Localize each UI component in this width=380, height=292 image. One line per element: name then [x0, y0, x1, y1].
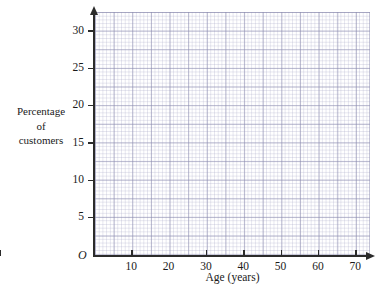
- x-axis-arrow-icon: [366, 252, 375, 260]
- y-tick-15: [88, 142, 94, 143]
- y-tick-label-30: 30: [44, 25, 84, 37]
- y-tick-5: [88, 217, 94, 218]
- y-tick-label-25: 25: [44, 62, 84, 74]
- x-tick-30: [206, 250, 207, 256]
- y-tick-25: [88, 68, 94, 69]
- graph-paper-grid: [95, 12, 370, 256]
- blank-grid-chart: 30 25 20 15 10 5 10 20 30 40 50 60 70 O …: [0, 0, 380, 292]
- y-axis-title-line-3: customers: [4, 133, 78, 148]
- x-tick-20: [0, 250, 1, 256]
- x-tick-10: [131, 250, 132, 256]
- x-tick-60: [318, 250, 319, 256]
- grid-right-edge: [369, 12, 370, 256]
- y-tick-label-5: 5: [44, 211, 84, 223]
- y-axis-line: [93, 14, 95, 256]
- y-axis-title: Percentage of customers: [4, 104, 78, 148]
- x-axis-line: [93, 255, 368, 257]
- y-axis-arrow-icon: [90, 6, 98, 15]
- y-tick-20: [88, 105, 94, 106]
- y-tick-label-10: 10: [44, 174, 84, 186]
- x-tick-50: [281, 250, 282, 256]
- x-axis-title: Age (years): [95, 271, 370, 283]
- y-tick-30: [88, 30, 94, 31]
- x-tick-40: [243, 250, 244, 256]
- origin-label: O: [78, 248, 87, 263]
- x-tick-70: [355, 250, 356, 256]
- y-axis-title-line-1: Percentage: [4, 104, 78, 119]
- y-tick-10: [88, 180, 94, 181]
- y-axis-title-line-2: of: [4, 119, 78, 134]
- grid-top-edge: [95, 12, 370, 13]
